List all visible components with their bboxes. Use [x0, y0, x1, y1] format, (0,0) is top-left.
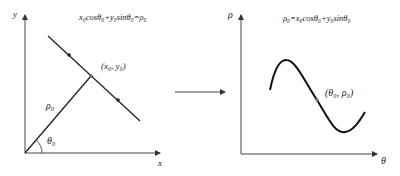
right-point-label: (θ₀, ρ₀) [325, 87, 353, 98]
left-x-label: x [158, 158, 162, 168]
theta-label: θ₀ [47, 135, 55, 146]
theta-arc [36, 140, 42, 153]
left-point-label: (x₀, y₀) [101, 61, 126, 71]
right-rho-label: ρ [228, 9, 233, 20]
rho-label: ρ₀ [46, 100, 54, 111]
curve-point [315, 98, 319, 102]
image-line [48, 36, 140, 121]
line-dot-upper [67, 53, 71, 57]
foot-point [89, 74, 93, 78]
right-theta-label: θ [381, 155, 386, 166]
left-equation: x₀cosθ₀+y₀sinθ₀=ρ₀ [79, 12, 146, 22]
left-y-label: y [13, 9, 17, 19]
right-equation: ρ₀=x₀cosθ₀+y₀sinθ₀ [283, 13, 350, 23]
rho-segment [25, 76, 91, 153]
line-dot-lower [116, 98, 120, 102]
